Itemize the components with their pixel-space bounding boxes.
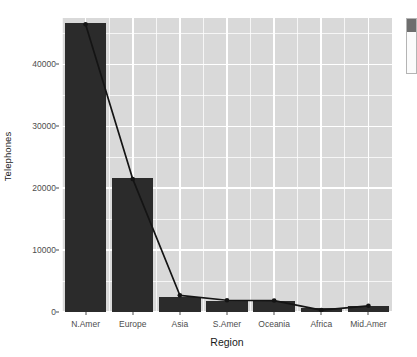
x-axis-title: Region: [62, 336, 392, 348]
x-tick-label: Mid.Amer: [350, 320, 386, 329]
x-tick-mark: [132, 312, 133, 315]
x-tick-label: N.Amer: [71, 320, 100, 329]
plot-panel: [62, 18, 392, 312]
y-tick-label: 10000: [14, 246, 56, 255]
y-axis-ticks: 010000200003000040000: [10, 0, 56, 357]
line-path: [86, 24, 369, 310]
y-tick-label: 30000: [14, 122, 56, 131]
y-tick-label: 0: [14, 308, 56, 317]
line-point-oceania: [272, 298, 277, 303]
x-tick-label: Oceania: [258, 320, 290, 329]
line-point-asia: [178, 293, 183, 298]
line-point-europe: [130, 177, 135, 182]
line-point-mid-amer: [366, 304, 371, 309]
side-panel-header: [407, 19, 416, 32]
x-tick-label: Asia: [172, 320, 189, 329]
y-tick-mark: [56, 126, 59, 127]
x-tick-label: Africa: [310, 320, 332, 329]
line-series: [62, 18, 392, 312]
line-point-s-amer: [225, 298, 230, 303]
y-tick-label: 20000: [14, 184, 56, 193]
x-tick-mark: [179, 312, 180, 315]
x-tick-label: S.Amer: [213, 320, 241, 329]
y-tick-label: 40000: [14, 60, 56, 69]
x-tick-mark: [85, 312, 86, 315]
x-tick-mark: [274, 312, 275, 315]
y-tick-mark: [56, 250, 59, 251]
x-tick-mark: [227, 312, 228, 315]
x-tick-mark: [368, 312, 369, 315]
x-tick-label: Europe: [119, 320, 146, 329]
x-tick-mark: [321, 312, 322, 315]
side-panel-partial[interactable]: [406, 18, 417, 74]
y-tick-mark: [56, 312, 59, 313]
y-tick-mark: [56, 64, 59, 65]
line-point-n-amer: [83, 22, 88, 27]
x-axis-ticks: N.AmerEuropeAsiaS.AmerOceaniaAfricaMid.A…: [62, 312, 392, 336]
chart-plot-area: Telephones 010000200003000040000 N.AmerE…: [0, 0, 417, 357]
y-tick-mark: [56, 188, 59, 189]
